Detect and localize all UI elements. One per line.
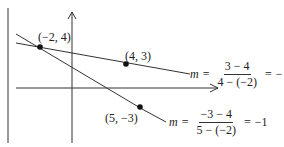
- numerator: −3 − 4: [199, 108, 233, 123]
- equals-sign: =: [265, 67, 272, 82]
- slope-fraction: −3 − 4 5 − (−2): [196, 108, 236, 136]
- denominator: 5 − (−2): [196, 123, 236, 137]
- point-5-neg3: [137, 104, 143, 110]
- point-label: (4, 3): [125, 50, 151, 62]
- result-sign: −: [276, 67, 283, 82]
- equals-sign: =: [203, 67, 210, 82]
- point-neg2-4: [37, 44, 43, 50]
- numerator: 3 − 4: [224, 60, 251, 75]
- equals-sign: =: [182, 115, 189, 130]
- slope-equation-2: m = −3 − 4 5 − (−2) = −1: [169, 108, 268, 136]
- slope-variable: m: [169, 115, 178, 130]
- slope-equation-1: m = 3 − 4 4 − (−2) = − 1 6: [190, 60, 284, 88]
- equals-sign: =: [244, 115, 251, 130]
- denominator: 4 − (−2): [217, 75, 257, 89]
- line-slope-neg-one: [16, 34, 142, 109]
- slope-variable: m: [190, 67, 199, 82]
- slope-fraction: 3 − 4 4 − (−2): [217, 60, 257, 88]
- result-value: −1: [255, 115, 268, 130]
- point-label: (−2, 4): [38, 31, 71, 43]
- point-label: (5, −3): [105, 112, 138, 124]
- leader-line: [142, 109, 166, 122]
